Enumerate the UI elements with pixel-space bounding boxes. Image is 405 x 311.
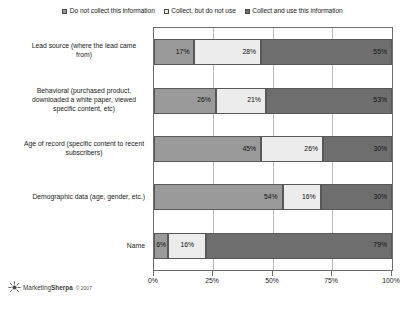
watermark-brand-light: Marketing	[23, 284, 51, 291]
x-axis-tick-label-100: 100%	[382, 277, 399, 284]
chart-legend: Do not collect this information Collect,…	[0, 8, 405, 15]
legend-entry-do-not-collect: Do not collect this information	[62, 8, 154, 15]
x-axis-tick-label-75: 75%	[324, 277, 338, 284]
bar-value-label: 17%	[176, 49, 194, 56]
bar-segment-series-2: 30%	[323, 136, 392, 162]
x-axis-ticks	[153, 271, 393, 276]
y-axis-category-labels: Lead source (where the lead came from) B…	[0, 27, 150, 271]
table-row: 26% 21% 53%	[154, 88, 392, 114]
y-axis-label-behavioral: Behavioral (purchased product, downloade…	[0, 87, 150, 113]
legend-swatch-icon-series-2	[245, 9, 250, 14]
legend-label-series-0: Do not collect this information	[70, 8, 155, 15]
table-row: 45% 26% 30%	[154, 136, 392, 162]
x-axis-tick-label-0: 0%	[148, 277, 158, 284]
bar-segment-series-1: 16%	[283, 184, 321, 210]
y-axis-label-name: Name	[0, 234, 150, 260]
bar-segment-series-2: 53%	[266, 88, 392, 114]
bar-value-label: 54%	[264, 194, 282, 201]
watermark-brand-bold: Sherpa	[51, 284, 73, 291]
legend-label-series-2: Collect and use this information	[252, 8, 342, 15]
legend-swatch-icon-series-1	[164, 9, 169, 14]
bar-segment-series-1: 16%	[168, 233, 206, 259]
plot-area: 17% 28% 55% 26% 21% 53%	[153, 27, 393, 271]
watermark-copyright: © 2007	[76, 285, 92, 291]
y-axis-label-lead-source: Lead source (where the lead came from)	[0, 38, 150, 64]
x-axis-tick-label-25: 25%	[205, 277, 219, 284]
bar-segment-series-0: 54%	[154, 184, 283, 210]
stacked-bar-chart: Do not collect this information Collect,…	[0, 0, 405, 311]
bar-value-label: 16%	[302, 194, 320, 201]
x-axis-tick-labels: 0% 25% 50% 75% 100%	[153, 277, 393, 289]
bar-segment-series-2: 79%	[206, 233, 392, 259]
table-row: 54% 16% 30%	[154, 184, 392, 210]
bar-segment-series-2: 55%	[261, 39, 392, 65]
bar-segment-series-0: 17%	[154, 39, 194, 65]
bar-value-label: 26%	[304, 146, 322, 153]
marketingsherpa-watermark: MarketingSherpa © 2007	[8, 281, 92, 294]
watermark-brand: MarketingSherpa	[23, 284, 73, 291]
bar-segment-series-0: 45%	[154, 136, 261, 162]
bar-value-label: 45%	[242, 146, 260, 153]
legend-entry-collect-and-use: Collect and use this information	[245, 8, 343, 15]
bar-segment-series-1: 21%	[216, 88, 266, 114]
legend-swatch-icon-series-0	[62, 9, 67, 14]
bar-value-label: 6%	[155, 242, 167, 249]
bar-value-label: 30%	[373, 146, 391, 153]
bar-segment-series-0: 26%	[154, 88, 216, 114]
bar-value-label: 26%	[197, 97, 215, 104]
bar-value-label: 30%	[373, 194, 391, 201]
bar-rows: 17% 28% 55% 26% 21% 53%	[154, 28, 392, 270]
y-axis-label-demographic-data: Demographic data (age, gender, etc.)	[0, 185, 150, 211]
legend-entry-collect-but-do-not-use: Collect, but do not use	[164, 8, 236, 15]
bar-value-label: 21%	[247, 97, 265, 104]
bar-value-label: 16%	[169, 242, 205, 249]
x-axis-tick-label-50: 50%	[265, 277, 279, 284]
bar-segment-series-1: 28%	[194, 39, 261, 65]
bar-segment-series-1: 26%	[261, 136, 323, 162]
bar-segment-series-0: 6%	[154, 233, 168, 259]
bar-value-label: 28%	[242, 49, 260, 56]
bar-value-label: 55%	[373, 49, 391, 56]
table-row: 17% 28% 55%	[154, 39, 392, 65]
bar-value-label: 53%	[373, 97, 391, 104]
bar-segment-series-2: 30%	[321, 184, 392, 210]
y-axis-label-age-of-record: Age of record (specific content to recen…	[0, 136, 150, 162]
legend-label-series-1: Collect, but do not use	[171, 8, 235, 15]
table-row: 6% 16% 79%	[154, 233, 392, 259]
bar-value-label: 79%	[373, 242, 391, 249]
sun-burst-logo-icon	[8, 281, 21, 294]
